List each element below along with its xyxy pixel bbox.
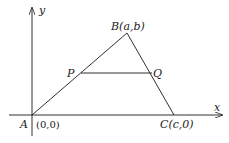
point-c-label: C(c,0) [160,118,194,131]
point-q-label: Q [153,67,162,80]
point-a-coord: (0,0) [36,119,60,130]
side-ab [32,33,127,115]
y-axis-label: y [38,4,46,17]
side-bc [127,33,174,115]
point-b-label: B(a,b) [110,20,145,33]
triangle-diagram: y x B(a,b) P Q A (0,0) C(c,0) [0,0,229,143]
point-a-label: A [19,118,28,131]
point-p-label: P [66,67,75,80]
x-axis-label: x [214,101,221,114]
